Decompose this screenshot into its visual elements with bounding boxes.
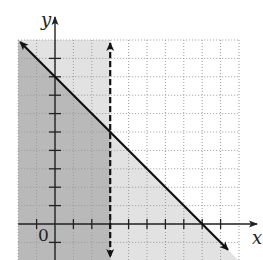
y-axis-label: y bbox=[40, 9, 52, 30]
x-axis-label: x bbox=[252, 227, 262, 248]
inequality-graph: xy0 bbox=[0, 0, 263, 260]
origin-label: 0 bbox=[38, 225, 49, 245]
